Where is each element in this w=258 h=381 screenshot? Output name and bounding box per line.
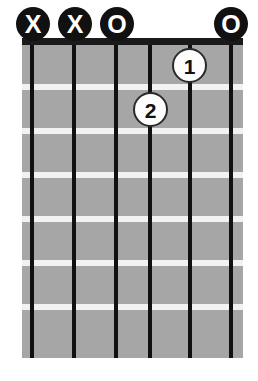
- fret-line-1: [22, 84, 243, 90]
- string-marker-open-3: O: [100, 7, 134, 41]
- fretboard: [22, 44, 243, 358]
- finger-dot-2: 2: [133, 92, 168, 127]
- fret-line-4: [22, 216, 243, 222]
- chord-diagram: X X O O 1 2: [0, 0, 258, 381]
- string-3: [114, 44, 118, 358]
- string-1: [30, 44, 34, 358]
- finger-dot-1: 1: [172, 48, 207, 83]
- string-6: [229, 44, 233, 358]
- fret-line-5: [22, 260, 243, 266]
- string-2: [72, 44, 76, 358]
- string-5: [188, 44, 192, 358]
- fret-line-6: [22, 304, 243, 310]
- string-marker-muted-1: X: [16, 7, 50, 41]
- fret-line-3: [22, 172, 243, 178]
- nut: [22, 38, 243, 45]
- string-marker-muted-2: X: [58, 7, 92, 41]
- string-marker-open-6: O: [214, 7, 248, 41]
- fret-line-2: [22, 128, 243, 134]
